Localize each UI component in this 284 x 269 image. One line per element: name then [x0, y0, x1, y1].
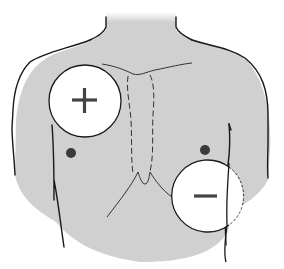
torso-illustration: [0, 0, 284, 269]
chest-diagram: Defibrillator pad placement on chest + −: [0, 0, 284, 269]
nipple-left: [200, 145, 210, 155]
nipple-right: [66, 148, 76, 158]
positive-pad: [49, 65, 121, 137]
